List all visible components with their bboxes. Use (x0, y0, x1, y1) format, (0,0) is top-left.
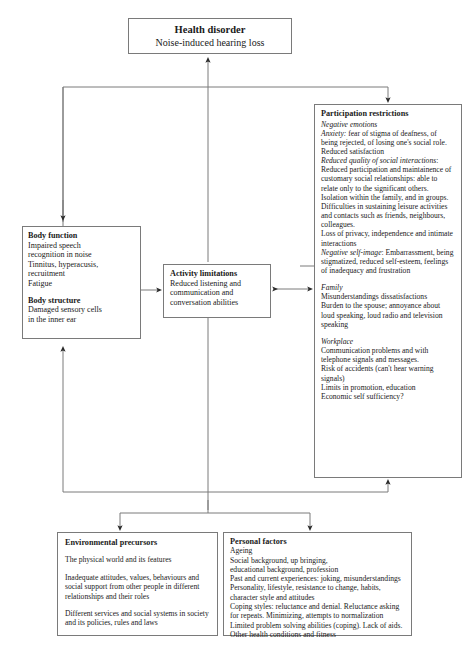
personal-line: Personality, lifestyle, resistance to ch… (230, 583, 405, 592)
activity-limitations-box[interactable]: Activity limitations Reduced listening a… (163, 264, 271, 318)
personal-line: educational background, profession (230, 565, 405, 574)
personal-line: Coping styles: reluctance and denial. Re… (230, 602, 405, 611)
health-disorder-title: Health disorder (175, 23, 246, 36)
workplace-heading: Workplace (321, 337, 455, 346)
personal-line: Past and current experiences: joking, mi… (230, 574, 405, 583)
workplace-line: Risk of accidents (can't hear warning si… (321, 364, 455, 382)
self-image-entry: Negative self-image: Embarrassment, bein… (321, 248, 455, 275)
activity-line: communication and (170, 288, 264, 298)
personal-line: character style and attitudes (230, 593, 405, 602)
environmental-paragraph: Different services and social systems in… (65, 609, 210, 628)
negative-emotions-heading: Negative emotions (321, 120, 455, 129)
activity-limitations-title: Activity limitations (170, 269, 264, 279)
wire-bus-to-bodyfunction-stub (63, 87, 141, 232)
spacer (65, 601, 210, 609)
privacy-text: Loss of privacy, independence and intima… (321, 229, 455, 247)
body-function-structure-box[interactable]: Body function Impaired speech recognitio… (22, 226, 141, 339)
reduced-quality-label: Reduced quality of social interactions (321, 156, 436, 165)
body-function-line: recognition in noise (28, 250, 135, 260)
spacer (28, 289, 135, 296)
diagram-canvas: Health disorder Noise-induced hearing lo… (0, 0, 468, 670)
environmental-paragraph: The physical world and its features (65, 555, 210, 564)
workplace-line: Limits in promotion, education (321, 383, 455, 392)
health-disorder-subtitle: Noise-induced hearing loss (156, 36, 265, 49)
self-image-label: Negative self-image (321, 248, 382, 257)
personal-line: Limited problem solving abilities (copin… (230, 621, 405, 630)
personal-line: Other health conditions and fitness (230, 630, 405, 639)
participation-restrictions-box[interactable]: Participation restrictions Negative emot… (314, 104, 462, 478)
body-structure-lines: Damaged sensory cells in the inner ear (28, 305, 135, 324)
anxiety-label: Anxiety: (321, 129, 346, 138)
environmental-title: Environmental precursors (65, 538, 210, 547)
family-line: Burden to the spouse; annoyance about lo… (321, 301, 455, 328)
reduced-quality-text: : Reduced participation and maintainence… (321, 156, 451, 229)
personal-line: Social background, up bringing, (230, 556, 405, 565)
health-disorder-box[interactable]: Health disorder Noise-induced hearing lo… (128, 18, 292, 54)
spacer (321, 275, 455, 283)
body-structure-line: in the inner ear (28, 315, 135, 325)
body-function-line: Tinnitus, hyperacusis, (28, 260, 135, 270)
activity-line: conversation abilities (170, 298, 264, 308)
spacer (65, 547, 210, 555)
body-structure-title: Body structure (28, 296, 135, 306)
participation-title: Participation restrictions (321, 109, 455, 120)
body-structure-line: Damaged sensory cells (28, 305, 135, 315)
activity-line: Reduced listening and (170, 279, 264, 289)
personal-line: Ageing (230, 546, 405, 555)
body-function-line: recruitment (28, 269, 135, 279)
personal-factors-box[interactable]: Personal factors Ageing Social backgroun… (223, 532, 412, 636)
environmental-paragraph: Inadequate attitudes, values, behaviours… (65, 573, 210, 601)
family-heading: Family (321, 283, 455, 292)
body-function-line: Impaired speech (28, 241, 135, 251)
body-function-title: Body function (28, 231, 135, 241)
spacer (65, 565, 210, 573)
workplace-line: Communication problems and with telephon… (321, 346, 455, 364)
social-interactions-entry: Reduced quality of social interactions: … (321, 156, 455, 229)
environmental-precursors-box[interactable]: Environmental precursors The physical wo… (57, 532, 218, 636)
workplace-line: Economic self sufficiency? (321, 392, 455, 401)
body-function-line: Fatigue (28, 279, 135, 289)
family-line: Misunderstandings dissatisfactions (321, 292, 455, 301)
spacer (321, 329, 455, 337)
personal-title: Personal factors (230, 537, 405, 546)
personal-line: for repeats. Minimizing, attempts to nor… (230, 611, 405, 620)
anxiety-entry: Anxiety: fear of stigma of deafness, of … (321, 129, 455, 156)
body-function-lines: Impaired speech recognition in noise Tin… (28, 241, 135, 289)
